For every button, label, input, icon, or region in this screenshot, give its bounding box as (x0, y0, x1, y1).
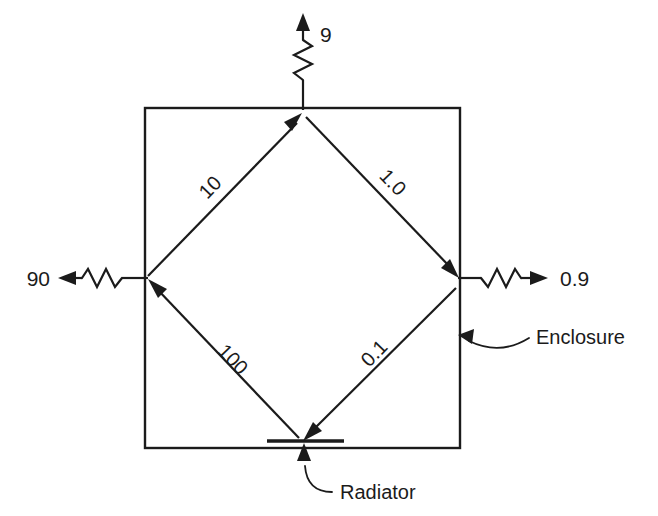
arrow-head-right-icon (530, 271, 548, 285)
arrow-head-up-icon (296, 13, 310, 31)
arrow-head-up-right-icon (284, 113, 302, 131)
enclosure-boundary (145, 108, 460, 448)
flow-edge-right-to-bottom (303, 288, 456, 441)
energy-flow-diagram: 9 90 0.9 10 1.0 100 0.1 Enclosure (0, 0, 658, 516)
radiator-label: Radiator (340, 481, 416, 503)
resistor-top-branch (294, 13, 312, 110)
radiator-callout-leader (297, 443, 332, 492)
edge-label-lower-left: 100 (214, 339, 253, 378)
arrow-head-left-icon (58, 271, 76, 285)
diagram-canvas: 9 90 0.9 10 1.0 100 0.1 Enclosure (0, 0, 658, 516)
flow-value-left: 90 (27, 267, 50, 290)
flow-value-top: 9 (320, 23, 332, 46)
flow-edge-left-to-top (148, 113, 302, 276)
flow-edge-top-to-right (306, 117, 459, 278)
flow-value-right: 0.9 (560, 267, 589, 290)
edge-label-lower-right: 0.1 (356, 335, 391, 370)
enclosure-callout-leader (458, 329, 529, 348)
enclosure-label: Enclosure (536, 326, 625, 348)
resistor-left-branch (58, 269, 148, 287)
arrow-head-callout-radiator-icon (297, 443, 311, 461)
resistor-right-branch (458, 269, 548, 287)
edge-label-upper-left: 10 (194, 171, 225, 202)
